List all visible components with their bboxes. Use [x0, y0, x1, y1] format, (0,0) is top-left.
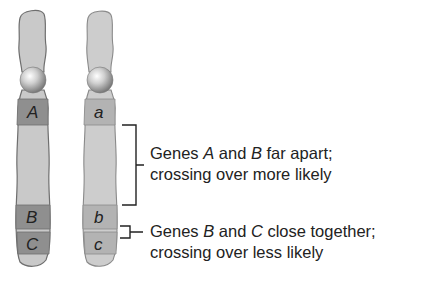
- centromere-icon: [87, 67, 113, 93]
- gene-name: C: [251, 222, 263, 240]
- chromosome-left: A B C: [16, 11, 50, 267]
- gene-label-A: A: [26, 103, 38, 122]
- gene-label-C: C: [26, 235, 39, 254]
- annotation-line-2: crossing over less likely: [150, 242, 376, 263]
- gene-name: B: [203, 222, 214, 240]
- chromosome-right: a b c: [83, 11, 117, 266]
- gene-name: B: [251, 144, 262, 162]
- gene-label-a: a: [94, 103, 103, 122]
- annotation-line-2: crossing over more likely: [150, 164, 333, 185]
- gene-label-b: b: [94, 208, 103, 227]
- gene-name: A: [203, 144, 214, 162]
- annotation-line-1: Genes A and B far apart;: [150, 143, 333, 164]
- annotation-line-1: Genes B and C close together;: [150, 221, 376, 242]
- gene-label-B: B: [26, 208, 37, 227]
- annotation-far-apart: Genes A and B far apart; crossing over m…: [150, 143, 333, 185]
- gene-label-c: c: [94, 235, 103, 254]
- bracket-small: [120, 226, 143, 238]
- bracket-large: [122, 125, 144, 205]
- annotation-close-together: Genes B and C close together; crossing o…: [150, 221, 376, 263]
- centromere-icon: [20, 67, 46, 93]
